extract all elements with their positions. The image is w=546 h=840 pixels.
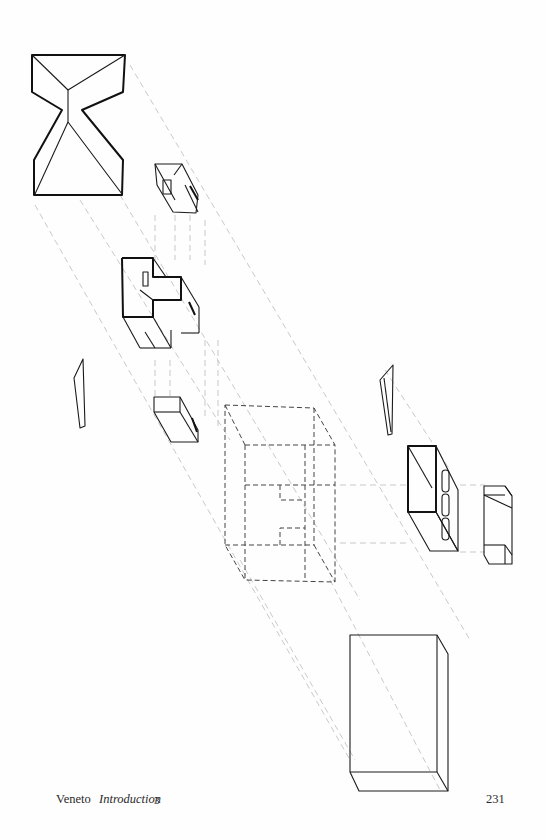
book-page: Veneto Introduction 3 231 xyxy=(0,0,546,840)
small-box xyxy=(154,397,198,442)
projection-guide-lines xyxy=(35,65,485,790)
page-number: 231 xyxy=(486,792,505,807)
central-cruciform-volume xyxy=(122,258,199,348)
base-block xyxy=(350,635,448,791)
left-wall-panel xyxy=(74,359,85,428)
running-head-region: Veneto xyxy=(56,792,91,807)
page-footer: Veneto Introduction 3 231 xyxy=(0,792,546,812)
running-head-section: Introduction xyxy=(99,792,161,807)
roof-plan xyxy=(32,55,125,195)
right-end-block xyxy=(484,486,512,564)
dashed-phantom-volume xyxy=(225,405,335,582)
running-head-section-number: 3 xyxy=(154,794,160,806)
exploded-axonometric-drawing xyxy=(0,0,546,840)
slotted-block xyxy=(408,446,458,551)
right-wall-panel xyxy=(380,365,393,435)
upper-volume-fragment xyxy=(155,164,198,213)
